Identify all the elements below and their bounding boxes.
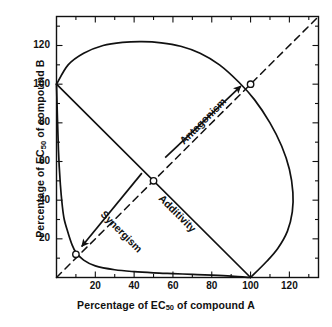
x-tick-label: 80 <box>197 280 227 291</box>
curve-line-of-identity <box>57 17 319 278</box>
marker-antagonism-point <box>247 81 253 87</box>
x-axis-title: Percentage of EC50 of compound A <box>0 299 332 312</box>
y-tick-label: 80 <box>20 116 50 127</box>
x-axis-title-post: of compound A <box>174 299 255 311</box>
x-tick-label: 40 <box>119 280 149 291</box>
y-tick-label: 20 <box>20 232 50 243</box>
marker-additivity-point <box>150 178 156 184</box>
y-axis-title-subscript: 50 <box>39 141 48 149</box>
x-tick-label: 100 <box>236 280 266 291</box>
y-tick-label: 120 <box>20 39 50 50</box>
y-tick-label: 100 <box>20 78 50 89</box>
y-tick-label: 60 <box>20 155 50 166</box>
y-axis-title-post: of compound B <box>34 60 46 141</box>
x-axis-title-subscript: 50 <box>166 303 174 312</box>
y-tick-label: 40 <box>20 194 50 205</box>
marker-synergism-point <box>73 251 79 257</box>
x-axis-title-pre: Percentage of EC <box>77 299 166 311</box>
x-tick-label: 120 <box>274 280 304 291</box>
isobologram-figure: Percentage of EC50 of compound A Percent… <box>0 0 332 327</box>
x-tick-label: 20 <box>80 280 110 291</box>
x-tick-label: 60 <box>158 280 188 291</box>
